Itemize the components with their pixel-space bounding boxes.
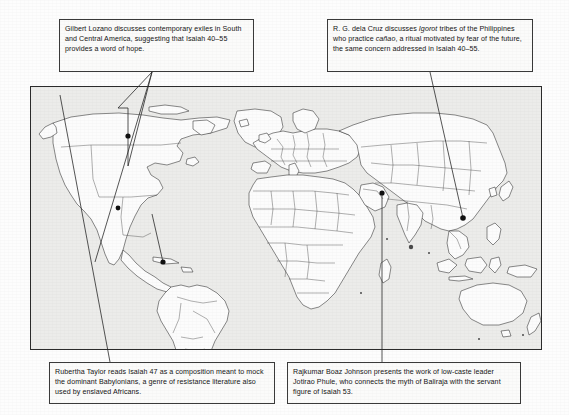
- landmass-new-guinea: [507, 265, 537, 277]
- landmass-india: [397, 203, 423, 243]
- map-frame: [30, 86, 542, 350]
- callout-rg-dela-cruz: R. G. dela Cruz discusses Igorot tribes …: [327, 19, 533, 72]
- landmass-central-america: [121, 250, 171, 292]
- landmass-africa: [249, 175, 375, 309]
- landmass-newfoundland: [186, 157, 199, 166]
- landmass-sumatra: [437, 259, 457, 273]
- callout-text-part-1: R. G. dela Cruz discusses: [333, 25, 419, 33]
- callout-text: Rajkumar Boaz Johnson presents the work …: [293, 368, 501, 396]
- landmass-sulawesi: [489, 257, 501, 273]
- landmass-south-america: [157, 285, 229, 349]
- landmass-new-zealand: [527, 313, 541, 335]
- callout-gilbert-lozano: Gilbert Lozano discusses contemporary ex…: [59, 19, 254, 72]
- island-speck-3: [522, 334, 524, 336]
- landmass-philippines: [487, 223, 501, 245]
- landmass-java: [449, 276, 473, 281]
- annotated-world-map-figure: Gilbert Lozano discusses contemporary ex…: [0, 0, 569, 415]
- world-map-svg: [31, 87, 541, 349]
- landmass-madagascar: [379, 259, 391, 283]
- landmass-arctic-islands: [149, 105, 189, 114]
- island-speck-1: [386, 238, 388, 240]
- callout-rajkumar-boaz-johnson: Rajkumar Boaz Johnson presents the work …: [287, 362, 521, 404]
- landmass-cuba: [153, 257, 179, 264]
- landmass-borneo: [465, 257, 487, 273]
- callout-italic-canao: cañao: [376, 35, 396, 43]
- landmass-hispaniola: [181, 267, 193, 272]
- island-speck-4: [360, 292, 362, 294]
- island-speck-5: [478, 338, 480, 340]
- landmass-sri-lanka: [409, 245, 413, 249]
- landmass-japan: [499, 181, 513, 201]
- landmass-southeast-asia: [447, 231, 469, 259]
- callout-italic-igorot: Igorot: [419, 25, 438, 33]
- callout-text: Rubertha Taylor reads Isaiah 47 as a com…: [55, 368, 264, 396]
- island-speck-2: [428, 252, 430, 254]
- landmass-tasmania: [501, 330, 511, 337]
- landmass-iberia: [251, 161, 271, 173]
- landmass-australia: [459, 283, 527, 325]
- callout-text: Gilbert Lozano discusses contemporary ex…: [65, 25, 241, 53]
- callout-rubertha-taylor: Rubertha Taylor reads Isaiah 47 as a com…: [49, 362, 275, 404]
- landmass-north-america: [53, 113, 230, 265]
